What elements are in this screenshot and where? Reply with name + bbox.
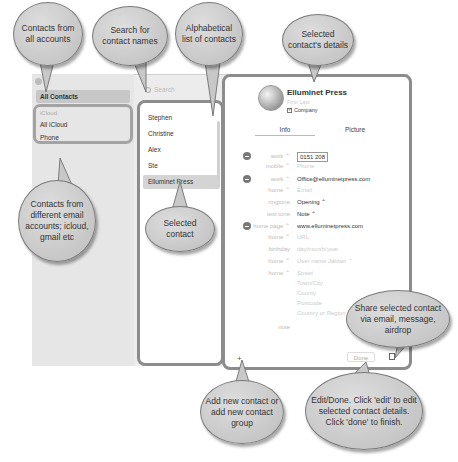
callout-add: Add new contact or add new contact group [200, 380, 284, 444]
im-input[interactable]: User name Jabber ⌃ [297, 256, 353, 266]
ringtone-select[interactable]: Opening ⌃ [297, 197, 326, 207]
url-input[interactable]: URL [297, 232, 309, 242]
field-label[interactable]: work ⌃ [271, 151, 290, 161]
field-row-text-tone: text tone Note ⌃ [225, 209, 410, 219]
list-item[interactable]: Ste [143, 159, 220, 173]
callout-selected: Selected contact [145, 206, 215, 252]
checkbox-icon [287, 108, 292, 113]
field-label: note [278, 322, 290, 332]
company-checkbox[interactable]: Company [287, 107, 318, 113]
add-contact-button[interactable]: + [237, 354, 242, 363]
field-row-home-page: home page ⌃ www.elluminetpress.com [225, 221, 410, 231]
field-label[interactable]: work ⌃ [271, 174, 290, 184]
remove-field-icon[interactable] [243, 175, 251, 183]
field-row-im: home ⌃ User name Jabber ⌃ [225, 256, 410, 266]
birthday-input[interactable]: day/month/year [297, 244, 338, 254]
field-row-work-email: work ⌃ Office@elluminetpress.com [225, 174, 410, 184]
field-row-mobile: mobile ⌃ Phone [225, 161, 410, 171]
field-label[interactable]: mobile ⌃ [266, 161, 290, 171]
field-row-birthday: birthday day/month/year [225, 244, 410, 254]
town-input[interactable]: Town/City [297, 278, 323, 288]
street-input[interactable]: Street [297, 268, 313, 278]
search-icon [145, 87, 151, 93]
list-item-selected[interactable]: Elluminet Press [143, 175, 220, 189]
text-tone-select[interactable]: Note ⌃ [297, 209, 316, 219]
callout-details: Selected contact's details [282, 14, 354, 66]
callout-alphabetical: Alphabetical list of contacts [175, 2, 243, 66]
callout-share: Share selected contact via email, messag… [346, 290, 450, 348]
callout-edit: Edit/Done. Click 'edit' to edit selected… [305, 372, 423, 450]
sidebar-item-all-contacts[interactable]: All Contacts [36, 90, 130, 103]
field-row-ringtone: ringtone Opening ⌃ [225, 197, 410, 207]
field-row-town: Town/City [225, 278, 410, 288]
field-row-url: home ⌃ URL [225, 232, 410, 242]
field-row-home-email: home ⌃ Email [225, 185, 410, 195]
mobile-input[interactable]: Phone [297, 161, 314, 171]
search-placeholder: Search [154, 86, 175, 93]
tab-picture[interactable]: Picture [325, 125, 385, 135]
county-input[interactable]: County [297, 288, 316, 298]
remove-field-icon[interactable] [243, 222, 251, 230]
country-input[interactable]: Country or Region [297, 308, 346, 318]
share-icon[interactable] [389, 353, 395, 360]
home-email-input[interactable]: Email [297, 185, 312, 195]
contact-name[interactable]: Elluminet Press [287, 88, 347, 97]
postcode-input[interactable]: Postcode [297, 298, 322, 308]
home-page-input[interactable]: www.elluminetpress.com [297, 221, 363, 231]
done-button[interactable]: Done [347, 352, 375, 362]
callout-all-accounts: Contacts from all accounts [13, 2, 83, 66]
field-label[interactable]: home page ⌃ [253, 221, 290, 231]
detail-tabs: Info Picture [255, 125, 395, 137]
list-item[interactable]: Christine [143, 127, 220, 141]
list-item[interactable]: Alex [143, 143, 220, 157]
tab-info[interactable]: Info [255, 125, 315, 136]
accounts-highlight [33, 104, 133, 144]
search-input[interactable]: Search [145, 86, 215, 98]
field-row-work-phone: work ⌃ 0151 208 [225, 151, 410, 161]
field-label[interactable]: home ⌃ [268, 185, 290, 195]
contact-avatar[interactable] [258, 85, 284, 111]
field-label[interactable]: home ⌃ [268, 268, 290, 278]
window-close-button[interactable] [35, 78, 42, 85]
work-email-input[interactable]: Office@elluminetpress.com [297, 174, 370, 184]
list-scrollbar[interactable] [217, 121, 220, 181]
remove-field-icon[interactable] [243, 152, 251, 160]
field-label: ringtone [268, 197, 290, 207]
list-item[interactable]: Stephen [143, 111, 220, 125]
contact-name-placeholder[interactable]: First Last [287, 99, 310, 105]
field-label[interactable]: home ⌃ [268, 256, 290, 266]
field-label: text tone [267, 209, 290, 219]
field-label: birthday [269, 244, 290, 254]
callout-accounts: Contacts from different email accounts; … [18, 180, 96, 262]
field-row-address: home ⌃ Street [225, 268, 410, 278]
field-label[interactable]: home ⌃ [268, 232, 290, 242]
callout-search: Search for contact names [92, 6, 168, 66]
company-label: Company [294, 107, 318, 113]
